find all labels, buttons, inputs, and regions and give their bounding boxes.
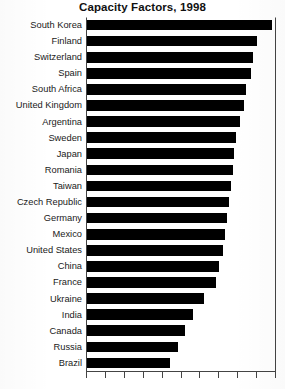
bar-category-label: South Korea bbox=[0, 17, 82, 33]
bar-row: Spain bbox=[0, 65, 285, 81]
x-axis-tick bbox=[199, 372, 200, 378]
bar-track bbox=[87, 291, 276, 307]
bar-row: Finland bbox=[0, 33, 285, 49]
bar-row: Japan bbox=[0, 146, 285, 162]
bar-track bbox=[87, 242, 276, 258]
bar-track bbox=[87, 323, 276, 339]
bar-fill bbox=[87, 165, 233, 176]
bar-category-label: United Kingdom bbox=[0, 97, 82, 113]
bar-category-label: Romania bbox=[0, 162, 82, 178]
bar-row: United States bbox=[0, 242, 285, 258]
x-axis-tick bbox=[181, 372, 182, 378]
x-axis-tick bbox=[237, 372, 238, 378]
x-axis-tick bbox=[218, 372, 219, 378]
bar-track bbox=[87, 339, 276, 355]
bar-fill bbox=[87, 358, 170, 369]
bar-fill bbox=[87, 132, 236, 143]
bar-row: Mexico bbox=[0, 226, 285, 242]
bar-track bbox=[87, 307, 276, 323]
bar-track bbox=[87, 146, 276, 162]
bar-category-label: Germany bbox=[0, 210, 82, 226]
bar-row: South Korea bbox=[0, 17, 285, 33]
bar-category-label: Mexico bbox=[0, 226, 82, 242]
bar-fill bbox=[87, 229, 225, 240]
bar-category-label: Czech Republic bbox=[0, 194, 82, 210]
bar-category-label: Sweden bbox=[0, 130, 82, 146]
bar-track bbox=[87, 258, 276, 274]
bar-row: Taiwan bbox=[0, 178, 285, 194]
bar-fill bbox=[87, 52, 253, 63]
x-axis-tick bbox=[86, 372, 87, 378]
bar-row: Russia bbox=[0, 339, 285, 355]
bar-category-label: Japan bbox=[0, 146, 82, 162]
bar-row: Sweden bbox=[0, 130, 285, 146]
bar-track bbox=[87, 33, 276, 49]
bar-row: Germany bbox=[0, 210, 285, 226]
bar-category-label: India bbox=[0, 307, 82, 323]
bar-track bbox=[87, 210, 276, 226]
bar-row: Argentina bbox=[0, 114, 285, 130]
bar-fill bbox=[87, 325, 185, 336]
bar-fill bbox=[87, 277, 216, 288]
bar-track bbox=[87, 194, 276, 210]
bar-track bbox=[87, 114, 276, 130]
bar-category-label: Russia bbox=[0, 339, 82, 355]
bar-row: Czech Republic bbox=[0, 194, 285, 210]
bar-category-label: Switzerland bbox=[0, 49, 82, 65]
chart-title: Capacity Factors, 1998 bbox=[0, 0, 285, 14]
bar-row: Switzerland bbox=[0, 49, 285, 65]
bar-fill bbox=[87, 261, 219, 272]
bar-fill bbox=[87, 293, 204, 304]
bar-row: United Kingdom bbox=[0, 97, 285, 113]
bar-category-label: United States bbox=[0, 242, 82, 258]
bar-fill bbox=[87, 213, 227, 224]
bar-track bbox=[87, 97, 276, 113]
bar-fill bbox=[87, 342, 178, 353]
bar-fill bbox=[87, 36, 257, 47]
bar-fill bbox=[87, 148, 234, 159]
bar-category-label: Finland bbox=[0, 33, 82, 49]
bar-row: France bbox=[0, 274, 285, 290]
bar-fill bbox=[87, 197, 229, 208]
bar-category-label: Spain bbox=[0, 65, 82, 81]
bar-category-label: South Africa bbox=[0, 81, 82, 97]
bar-track bbox=[87, 17, 276, 33]
bar-category-label: Canada bbox=[0, 323, 82, 339]
bar-track bbox=[87, 274, 276, 290]
bar-track bbox=[87, 49, 276, 65]
bar-category-label: Ukraine bbox=[0, 291, 82, 307]
bar-category-label: Brazil bbox=[0, 355, 82, 371]
bar-fill bbox=[87, 116, 240, 127]
x-axis-tick bbox=[143, 372, 144, 378]
bar-track bbox=[87, 81, 276, 97]
x-axis-tick bbox=[256, 372, 257, 378]
bar-category-label: China bbox=[0, 258, 82, 274]
x-axis-ticks bbox=[86, 372, 276, 381]
bar-category-label: France bbox=[0, 274, 82, 290]
x-axis-tick bbox=[124, 372, 125, 378]
bar-track bbox=[87, 130, 276, 146]
chart-figure: Capacity Factors, 1998 South KoreaFinlan… bbox=[0, 0, 285, 389]
bar-track bbox=[87, 65, 276, 81]
x-axis-tick bbox=[105, 372, 106, 378]
x-axis-tick bbox=[275, 372, 276, 378]
bar-category-label: Taiwan bbox=[0, 178, 82, 194]
bar-fill bbox=[87, 20, 272, 31]
bar-track bbox=[87, 355, 276, 371]
bar-rows-container: South KoreaFinlandSwitzerlandSpainSouth … bbox=[0, 17, 285, 371]
bar-row: South Africa bbox=[0, 81, 285, 97]
bar-category-label: Argentina bbox=[0, 114, 82, 130]
bar-row: Brazil bbox=[0, 355, 285, 371]
bar-row: India bbox=[0, 307, 285, 323]
bar-row: Ukraine bbox=[0, 291, 285, 307]
bar-fill bbox=[87, 100, 244, 111]
bar-row: Canada bbox=[0, 323, 285, 339]
bar-row: Romania bbox=[0, 162, 285, 178]
bar-track bbox=[87, 226, 276, 242]
bar-track bbox=[87, 178, 276, 194]
bar-fill bbox=[87, 309, 193, 320]
bar-fill bbox=[87, 245, 223, 256]
bar-fill bbox=[87, 84, 246, 95]
bar-fill bbox=[87, 181, 231, 192]
bar-fill bbox=[87, 68, 251, 79]
